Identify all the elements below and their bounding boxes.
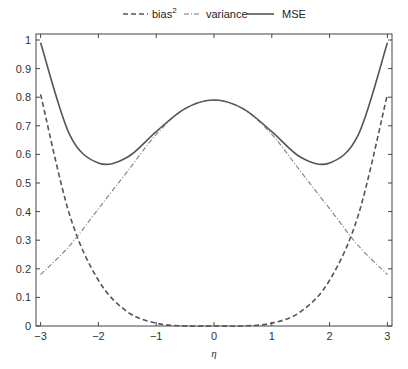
series-mse [41, 43, 388, 165]
y-axis: 00.10.20.30.40.50.60.70.80.91 [16, 34, 392, 332]
y-tick-label: 0.3 [16, 234, 31, 246]
x-tick-label: −1 [150, 330, 163, 342]
legend-label-variance: variance [206, 8, 248, 20]
y-tick-label: 0 [25, 320, 31, 332]
series-variance [41, 100, 388, 274]
y-tick-label: 0.6 [16, 148, 31, 160]
y-tick-label: 1 [25, 34, 31, 46]
legend: bias2 variance MSE [123, 6, 306, 20]
x-tick-label: 1 [269, 330, 275, 342]
y-tick-label: 0.2 [16, 263, 31, 275]
series-bias [41, 94, 388, 326]
y-tick-label: 0.9 [16, 63, 31, 75]
y-tick-label: 0.8 [16, 91, 31, 103]
series-lines [41, 43, 388, 326]
legend-label-mse: MSE [282, 8, 306, 20]
legend-label-bias: bias2 [152, 6, 177, 20]
x-tick-label: 3 [384, 330, 390, 342]
x-tick-label: 2 [327, 330, 333, 342]
y-tick-label: 0.4 [16, 206, 31, 218]
y-tick-label: 0.7 [16, 120, 31, 132]
y-tick-label: 0.1 [16, 291, 31, 303]
x-tick-label: 0 [211, 330, 217, 342]
x-tick-label: −2 [92, 330, 105, 342]
plot-area [36, 34, 392, 326]
y-tick-label: 0.5 [16, 177, 31, 189]
x-tick-label: −3 [34, 330, 47, 342]
x-axis: −3−2−10123 [34, 34, 390, 342]
chart: bias2 variance MSE 00.10.20.30.40.50.60.… [0, 0, 408, 369]
x-axis-label: η [211, 347, 216, 359]
